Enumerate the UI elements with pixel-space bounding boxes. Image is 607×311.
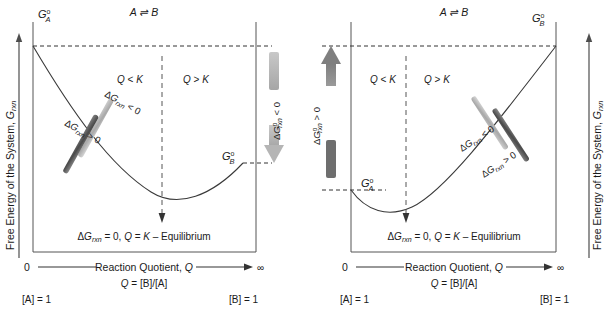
y-axis-label-right: Free Energy of the System, Grxn xyxy=(591,101,605,250)
reaction-label-right: A ⇌ B xyxy=(439,6,468,18)
delta-g-negative-label-right: ΔGrxn < 0 xyxy=(457,123,497,155)
equilibrium-arrow-right xyxy=(403,213,410,223)
x-axis-arrowhead-left xyxy=(244,263,253,270)
gb-standard-label-left: GoB xyxy=(222,150,235,166)
plot-frame-right xyxy=(351,22,556,252)
plot-frame-left xyxy=(33,22,256,252)
q-definition-left: Q = [B]/[A] xyxy=(121,278,168,289)
endergonic-panel: Free Energy of the System, Grxn A ⇌ B Go… xyxy=(304,0,607,311)
figure-root: Free Energy of the System, Grxn A ⇌ B Go… xyxy=(0,0,607,311)
x-axis-arrowhead-right xyxy=(544,263,553,270)
gb-standard-label-right: GoB xyxy=(532,12,545,28)
left-concentration-left: [A] = 1 xyxy=(22,294,52,305)
region-q-less-k-right: Q < K xyxy=(370,74,397,85)
q-definition-right: Q = [B]/[A] xyxy=(431,278,478,289)
x-axis-start-tick-right: 0 xyxy=(342,261,348,273)
equilibrium-note-left: ΔGrxn = 0, Q = K – Equilibrium xyxy=(77,231,210,243)
standard-delta-g-arrow-right xyxy=(321,46,341,178)
x-axis-end-tick-right: ∞ xyxy=(557,262,564,273)
y-axis-label-left: Free Energy of the System, Grxn xyxy=(4,101,18,250)
right-panel-svg: Free Energy of the System, Grxn A ⇌ B Go… xyxy=(304,0,607,311)
y-axis-left xyxy=(16,33,22,258)
standard-delta-g-label-left: ΔGorxn < 0 xyxy=(271,102,284,140)
x-axis-label-right: Reaction Quotient, Q xyxy=(405,261,503,273)
exergonic-panel: Free Energy of the System, Grxn A ⇌ B Go… xyxy=(0,0,303,311)
equilibrium-arrow-left xyxy=(159,213,166,223)
x-axis-label-left: Reaction Quotient, Q xyxy=(95,261,193,273)
delta-g-positive-label-right: ΔGrxn > 0 xyxy=(479,149,519,181)
left-concentration-right: [A] = 1 xyxy=(340,294,370,305)
region-q-greater-k-right: Q > K xyxy=(424,74,451,85)
region-q-less-k-left: Q < K xyxy=(117,74,144,85)
ga-standard-label-left: GoA xyxy=(38,8,51,24)
right-concentration-left: [B] = 1 xyxy=(229,294,259,305)
region-q-greater-k-left: Q > K xyxy=(183,74,210,85)
delta-g-negative-bar-left xyxy=(77,98,114,158)
right-concentration-right: [B] = 1 xyxy=(540,294,570,305)
free-energy-curve-right xyxy=(351,46,556,212)
x-axis-end-tick-left: ∞ xyxy=(257,262,264,273)
ga-standard-label-right: GoA xyxy=(361,177,374,193)
equilibrium-note-right: ΔGrxn = 0, Q = K – Equilibrium xyxy=(387,231,520,243)
x-axis-start-tick-left: 0 xyxy=(24,261,30,273)
reaction-label-left: A ⇌ B xyxy=(129,6,158,18)
standard-delta-g-label-right: ΔGorxn > 0 xyxy=(311,107,324,145)
left-panel-svg: Free Energy of the System, Grxn A ⇌ B Go… xyxy=(0,0,303,311)
